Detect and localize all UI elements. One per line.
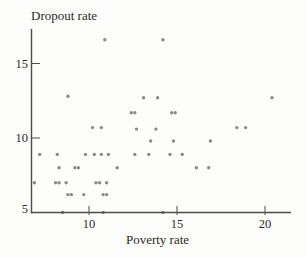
data-point <box>133 153 136 156</box>
data-point <box>56 153 59 156</box>
data-point <box>181 153 184 156</box>
data-points <box>33 38 274 214</box>
data-point <box>103 38 106 41</box>
data-point <box>38 153 41 156</box>
data-point <box>105 181 108 184</box>
y-tick-label: 10 <box>4 131 28 145</box>
data-point <box>57 166 60 169</box>
data-point <box>66 95 69 98</box>
data-point <box>270 96 273 99</box>
data-point <box>84 153 87 156</box>
x-axis-title: Poverty rate <box>100 233 215 247</box>
data-point <box>235 126 238 129</box>
x-tick-label: 20 <box>250 217 280 231</box>
data-point <box>107 153 110 156</box>
axes <box>31 29 291 215</box>
data-point <box>135 127 138 130</box>
data-point <box>168 153 171 156</box>
data-point <box>149 139 152 142</box>
x-tick-label: 10 <box>74 217 104 231</box>
data-point <box>133 111 136 114</box>
data-point <box>82 193 85 196</box>
data-point <box>33 181 36 184</box>
data-point <box>209 139 212 142</box>
data-point <box>91 126 94 129</box>
data-point <box>93 153 96 156</box>
data-point <box>142 96 145 99</box>
data-point <box>207 166 210 169</box>
data-point <box>100 126 103 129</box>
scatter-plot-figure: Dropout rate 10152051015 Poverty rate <box>0 0 307 258</box>
y-tick-label: 5 <box>4 202 28 216</box>
data-point <box>94 181 97 184</box>
data-point <box>244 126 247 129</box>
data-point <box>195 166 198 169</box>
data-point <box>130 111 133 114</box>
data-point <box>105 193 108 196</box>
data-point <box>57 181 60 184</box>
data-point <box>156 96 159 99</box>
data-point <box>98 181 101 184</box>
data-point <box>147 153 150 156</box>
data-point <box>73 166 76 169</box>
data-point <box>174 111 177 114</box>
x-tick-label: 15 <box>162 217 192 231</box>
data-point <box>66 193 69 196</box>
data-point <box>77 166 80 169</box>
data-point <box>101 193 104 196</box>
data-point <box>54 181 57 184</box>
data-point <box>172 139 175 142</box>
data-point <box>116 166 119 169</box>
data-point <box>64 181 67 184</box>
y-tick-label: 15 <box>4 57 28 71</box>
data-point <box>100 153 103 156</box>
data-point <box>161 38 164 41</box>
data-point <box>154 127 157 130</box>
data-point <box>70 193 73 196</box>
data-point <box>170 111 173 114</box>
